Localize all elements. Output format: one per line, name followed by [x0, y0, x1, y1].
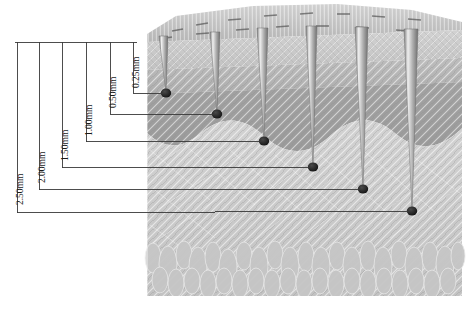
dimension-label-1-00: 1.00mm [84, 105, 94, 136]
dimension-label-0-50: 0.50mm [108, 77, 118, 108]
dimension-label-0-25: 0.25mm [131, 57, 141, 88]
block-left-edge [143, 0, 148, 300]
figure-root: 2.50mm 2.00mm 1.50mm 1.00mm 0.50mm 0.25m… [0, 0, 473, 317]
dimension-label-1-50: 1.50mm [60, 130, 70, 161]
dimension-label-2-50: 2.50mm [15, 174, 25, 205]
dimension-label-2-00: 2.00mm [37, 152, 47, 183]
skin-illustration [0, 0, 473, 317]
